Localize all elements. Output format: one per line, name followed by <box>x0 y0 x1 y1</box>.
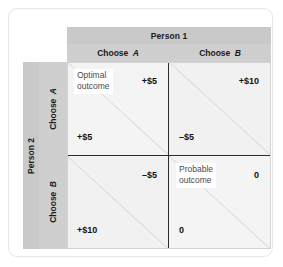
payoff-column-b-b: 0 <box>254 170 259 180</box>
column-strategy-choose-a: Choose A <box>67 44 169 62</box>
payoff-row-b-a: +$10 <box>77 225 97 235</box>
column-strategy-choose-b: Choose B <box>169 44 271 62</box>
figure-frame: Person 1 Choose A Choose B Person 2 Choo… <box>8 8 273 257</box>
column-strategy-header-row: Choose A Choose B <box>67 44 271 62</box>
payoff-row-b-b: 0 <box>179 225 184 235</box>
payoff-grid: Optimal outcome +$5 +$5 +$10 –$5 –$5 +$1… <box>67 62 271 249</box>
payoff-matrix: Person 1 Choose A Choose B Person 2 Choo… <box>23 27 263 246</box>
callout-probable-outcome: Probable outcome <box>176 163 216 188</box>
row-strategy-choose-b: Choose B <box>39 156 67 250</box>
strategy-letter: B <box>48 181 58 189</box>
column-strategy-b-label: Choose B <box>199 48 241 58</box>
strategy-letter: B <box>233 48 241 58</box>
payoff-cell-a-a: Optimal outcome +$5 +$5 <box>67 62 169 156</box>
row-player-header: Person 2 <box>23 62 39 249</box>
payoff-column-a-b: +$10 <box>239 76 259 86</box>
column-strategy-a-label: Choose A <box>97 48 139 58</box>
payoff-column-a-a: +$5 <box>142 76 157 86</box>
row-strategy-b-label: Choose B <box>48 181 58 223</box>
row-player-label: Person 2 <box>26 138 36 174</box>
strategy-letter: A <box>131 48 139 58</box>
payoff-column-b-a: –$5 <box>142 170 157 180</box>
payoff-cell-b-a: –$5 +$10 <box>67 156 169 250</box>
column-player-header: Person 1 <box>67 27 271 44</box>
payoff-cell-a-b: +$10 –$5 <box>169 62 271 156</box>
row-strategy-a-label: Choose A <box>48 88 58 130</box>
callout-optimal-outcome: Optimal outcome <box>74 69 113 94</box>
strategy-letter: A <box>48 88 58 96</box>
payoff-row-a-a: +$5 <box>77 132 92 142</box>
column-player-label: Person 1 <box>151 31 188 41</box>
row-strategy-choose-a: Choose A <box>39 62 67 156</box>
payoff-row-a-b: –$5 <box>179 132 194 142</box>
payoff-cell-b-b: Probable outcome 0 0 <box>169 156 271 250</box>
row-strategy-header-column: Choose A Choose B <box>39 62 67 249</box>
